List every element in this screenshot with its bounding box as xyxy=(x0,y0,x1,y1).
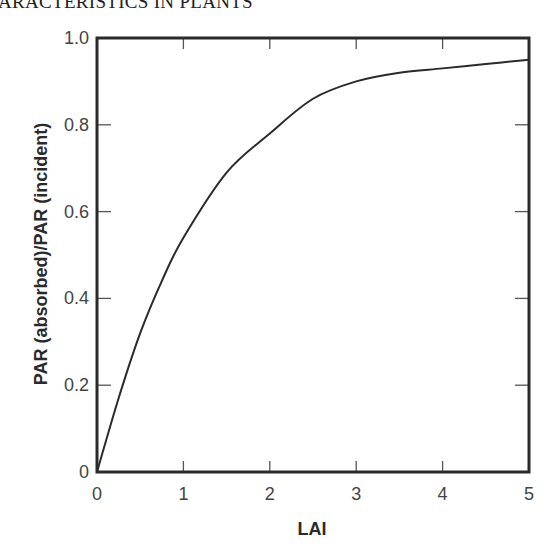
data-line xyxy=(97,60,529,472)
x-tick-label: 1 xyxy=(178,484,188,504)
y-tick-label: 0.2 xyxy=(64,375,89,395)
x-tick-label: 3 xyxy=(351,484,361,504)
x-axis-title: LAI xyxy=(298,519,327,539)
line-chart: 012345 00.20.40.60.81.0 LAI PAR (absorbe… xyxy=(0,0,545,555)
x-tick-label: 2 xyxy=(265,484,275,504)
y-tick-label: 0.4 xyxy=(64,288,89,308)
y-tick-label: 0.8 xyxy=(64,115,89,135)
x-tick-labels: 012345 xyxy=(92,484,534,504)
y-tick-label: 1.0 xyxy=(64,28,89,48)
x-tick-label: 0 xyxy=(92,484,102,504)
y-tick-label: 0 xyxy=(79,462,89,482)
y-tick-label: 0.6 xyxy=(64,202,89,222)
y-axis-title: PAR (absorbed)/PAR (incident) xyxy=(31,123,51,385)
x-tick-label: 5 xyxy=(524,484,534,504)
x-tick-label: 4 xyxy=(438,484,448,504)
axis-ticks xyxy=(97,38,529,472)
y-tick-labels: 00.20.40.60.81.0 xyxy=(64,28,89,482)
plot-frame xyxy=(97,38,529,472)
